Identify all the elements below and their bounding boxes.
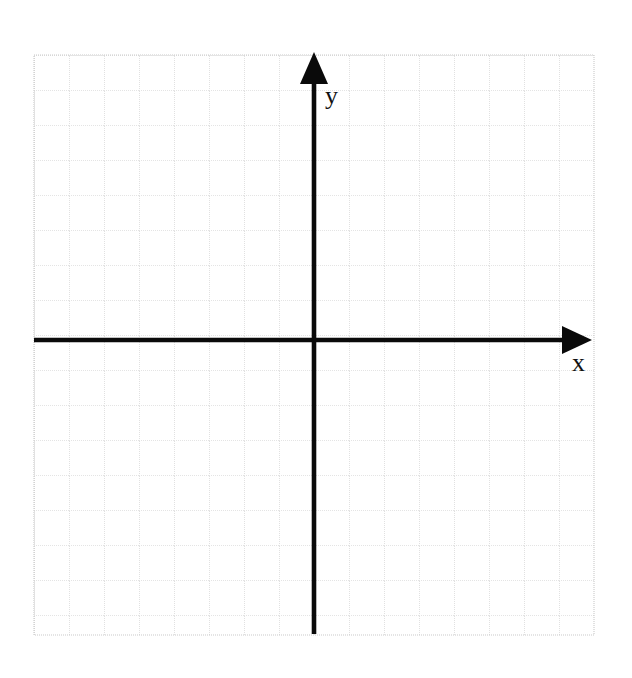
coordinate-grid-figure: y x xyxy=(0,0,632,678)
x-axis-label: x xyxy=(572,350,585,376)
y-axis-label: y xyxy=(325,83,338,109)
coordinate-plane-svg xyxy=(0,0,632,678)
